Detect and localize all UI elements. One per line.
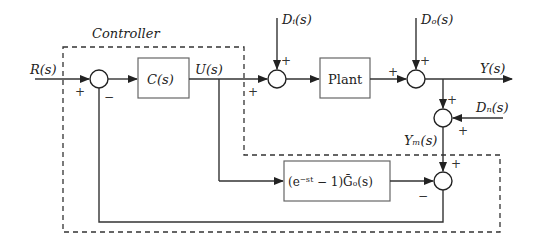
sign-sum2-u: + bbox=[248, 85, 258, 99]
sign-sum5-pred: − bbox=[418, 189, 428, 203]
sign-sum5-ym: + bbox=[451, 157, 461, 171]
sign-sum4-dn: + bbox=[458, 124, 468, 138]
summing-junction-2 bbox=[268, 70, 286, 88]
controller-block-label: C(s) bbox=[147, 72, 174, 87]
summing-junction-1 bbox=[90, 70, 108, 88]
output-disturbance-label: Dₒ(s) bbox=[420, 12, 453, 27]
controller-label: Controller bbox=[92, 26, 160, 41]
measured-output-label: Yₘ(s) bbox=[404, 133, 437, 148]
summing-junction-3 bbox=[407, 70, 425, 88]
summing-junction-5 bbox=[434, 172, 452, 190]
control-signal-label: U(s) bbox=[195, 62, 223, 77]
summing-junction-4 bbox=[434, 109, 452, 127]
sign-sum1-fb: − bbox=[104, 90, 114, 104]
noise-label: Dₙ(s) bbox=[475, 100, 509, 115]
output-label: Y(s) bbox=[480, 61, 505, 76]
sign-sum1-ref: + bbox=[75, 85, 85, 99]
sign-sum2-di: + bbox=[281, 54, 291, 68]
predictor-block-label: (e⁻ˢᵗ − 1)Ḡₒ(s) bbox=[288, 174, 373, 189]
sign-sum3-do: + bbox=[420, 54, 430, 68]
sign-sum3-plant: + bbox=[388, 65, 398, 79]
sign-sum4-y: + bbox=[447, 93, 457, 107]
plant-block-label: Plant bbox=[328, 72, 363, 87]
input-disturbance-label: Dᵢ(s) bbox=[281, 12, 312, 27]
block-diagram: Controller R(s) + − C(s) U(s) + Dᵢ(s) + … bbox=[0, 0, 537, 250]
reference-label: R(s) bbox=[29, 62, 57, 77]
